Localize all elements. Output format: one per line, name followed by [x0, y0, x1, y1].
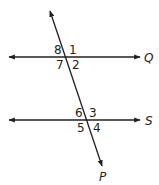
angle-7-label: 7	[56, 58, 64, 72]
angle-5-label: 5	[77, 121, 85, 135]
line-s-label: S	[145, 114, 153, 128]
parallel-lines-diagram: Q S P 8 1 7 2 6 3 5 4	[0, 0, 159, 185]
transversal-p-label: P	[99, 170, 107, 184]
angle-2-label: 2	[72, 58, 80, 72]
angle-6-label: 6	[75, 106, 83, 120]
angle-1-label: 1	[69, 43, 77, 57]
angle-4-label: 4	[93, 121, 101, 135]
line-q-label: Q	[144, 51, 153, 65]
angle-8-label: 8	[54, 43, 62, 57]
angle-3-label: 3	[89, 106, 97, 120]
transversal-p	[50, 11, 102, 166]
